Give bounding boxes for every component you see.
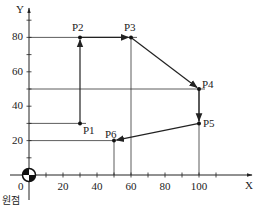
point-label-p3: P3 (124, 22, 136, 33)
guide-lines (29, 36, 205, 175)
point-label-p4: P4 (202, 79, 214, 90)
x-axis-label: X (245, 180, 253, 191)
y-axis-label: Y (16, 4, 24, 15)
x-tick-label-20: 20 (58, 181, 69, 192)
path-segment-P5-P6 (116, 123, 199, 140)
x-tick-label-80: 80 (160, 181, 171, 192)
x-tick-label-60: 60 (126, 181, 137, 192)
origin-marker-icon (23, 169, 36, 182)
x-tick-label-100: 100 (191, 181, 208, 192)
point-label-p1: P1 (83, 125, 95, 136)
path-segment-P3-P4 (131, 37, 197, 87)
point-p5 (197, 121, 201, 125)
x-tick-label-40: 40 (92, 181, 103, 192)
y-tick-label-40: 40 (12, 100, 23, 111)
tick-marks (27, 20, 217, 177)
point-label-p2: P2 (72, 22, 84, 33)
point-label-p6: P6 (105, 129, 117, 140)
y-tick-label-20: 20 (12, 135, 23, 146)
origin-label: 0 (18, 181, 24, 192)
point-label-p5: P5 (203, 118, 215, 129)
point-p2 (78, 35, 82, 39)
point-p1 (78, 121, 82, 125)
point-p4 (197, 87, 201, 91)
origin-caption: 원점 (2, 196, 20, 206)
y-tick-label-60: 60 (12, 66, 23, 77)
y-tick-label-80: 80 (12, 31, 23, 42)
point-p3 (129, 35, 133, 39)
